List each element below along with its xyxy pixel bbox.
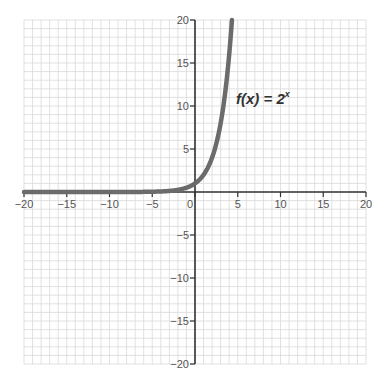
y-tick-label: −15 [170,315,189,327]
y-tick-label: 10 [177,100,189,112]
y-tick-label: −10 [170,272,189,284]
y-tick-label: −20 [170,358,189,370]
x-tick-label: 0 [187,198,193,210]
function-label: f(x) = 2x [236,89,291,107]
x-tick-label: −15 [57,198,76,210]
x-tick-label: −10 [100,198,119,210]
y-tick-label: 20 [177,14,189,26]
x-tick-label: 5 [235,198,241,210]
y-tick-label: 5 [183,143,189,155]
x-tick-label: −20 [15,198,34,210]
y-tick-label: 15 [177,57,189,69]
x-tick-label: 15 [317,198,329,210]
x-tick-label: 20 [360,198,372,210]
y-tick-label: −5 [176,229,189,241]
function-graph: −20−15−10−505101520−20−15−10−55101520 f(… [0,0,385,385]
x-tick-label: −5 [146,198,159,210]
x-tick-label: 10 [274,198,286,210]
